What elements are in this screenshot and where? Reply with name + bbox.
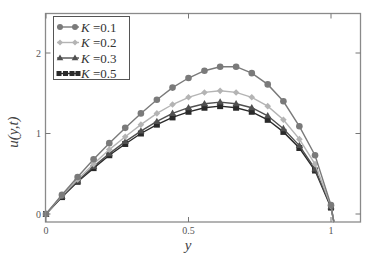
series-K=0.1 <box>43 63 335 222</box>
circle-marker-icon <box>74 174 81 181</box>
circle-marker-icon <box>312 152 319 159</box>
circle-marker-icon <box>106 140 113 147</box>
y-tick-label: 0 <box>36 209 41 220</box>
circle-marker-icon <box>122 125 129 132</box>
series-line <box>46 67 334 222</box>
square-marker-icon <box>70 71 75 76</box>
series-K=0.5 <box>43 103 334 222</box>
circle-marker-icon <box>72 24 78 30</box>
legend-label: K =0.5 <box>80 66 117 81</box>
x-axis-label: y <box>183 237 192 253</box>
line-chart: 00.51012 y u(y,t) K =0.1K =0.2K =0.3K =0… <box>0 0 375 265</box>
diamond-marker-icon <box>169 101 176 108</box>
circle-marker-icon <box>328 202 335 209</box>
circle-marker-icon <box>296 123 303 130</box>
triangle-marker-icon <box>137 127 144 133</box>
square-marker-icon <box>63 71 68 76</box>
legend-label: K =0.1 <box>80 20 117 35</box>
diamond-marker-icon <box>217 88 224 95</box>
legend: K =0.1K =0.2K =0.3K =0.5 <box>54 17 130 82</box>
circle-marker-icon <box>248 70 255 77</box>
y-tick-label: 1 <box>36 128 41 139</box>
circle-marker-icon <box>90 156 97 163</box>
circle-marker-icon <box>185 75 192 82</box>
x-tick-label: 0 <box>44 225 49 236</box>
diamond-marker-icon <box>201 89 208 96</box>
y-tick-label: 2 <box>36 48 41 59</box>
circle-marker-icon <box>280 98 287 105</box>
circle-marker-icon <box>217 63 224 70</box>
square-marker-icon <box>57 71 62 76</box>
circle-marker-icon <box>154 96 161 103</box>
triangle-marker-icon <box>217 98 224 104</box>
x-tick-label: 0.5 <box>182 225 195 236</box>
square-marker-icon <box>76 71 81 76</box>
diamond-marker-icon <box>233 89 240 96</box>
circle-marker-icon <box>201 67 208 74</box>
circle-marker-icon <box>59 191 66 198</box>
diamond-marker-icon <box>248 94 255 101</box>
x-tick-label: 1 <box>329 225 334 236</box>
circle-marker-icon <box>57 24 63 30</box>
series-K=0.3 <box>42 98 334 222</box>
plot-curves <box>42 63 334 222</box>
y-axis-label: u(y,t) <box>5 116 22 147</box>
series-line <box>46 102 334 222</box>
circle-marker-icon <box>233 63 240 70</box>
diamond-marker-icon <box>185 94 192 101</box>
legend-label: K =0.2 <box>80 35 117 50</box>
circle-marker-icon <box>169 84 176 91</box>
legend-label: K =0.3 <box>80 51 117 66</box>
circle-marker-icon <box>138 110 145 117</box>
circle-marker-icon <box>264 81 271 88</box>
